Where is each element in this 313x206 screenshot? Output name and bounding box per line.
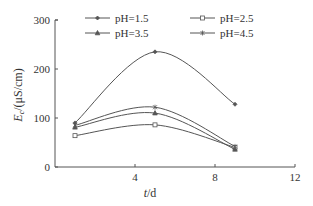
legend-label: pH=4.5 — [220, 27, 254, 39]
legend-label: pH=1.5 — [115, 12, 149, 24]
square-marker-icon — [201, 16, 205, 20]
y-axis-label-unit: /(μS/cm) — [11, 68, 25, 110]
chart: 48120100200300 pH=1.5pH=2.5pH=3.5pH=4.5 … — [0, 0, 313, 206]
y-axis-label: Ec/(μS/cm) — [11, 68, 26, 122]
diamond-marker-icon — [153, 50, 157, 54]
x-axis-label: t/d — [144, 186, 157, 200]
square-marker-icon — [73, 134, 77, 138]
legend-item: pH=3.5 — [85, 27, 149, 39]
legend-label: pH=3.5 — [115, 27, 149, 39]
series-ph-2-5 — [73, 123, 237, 150]
legend-item: pH=2.5 — [190, 12, 254, 24]
y-tick-label: 0 — [45, 161, 51, 173]
axes: 48120100200300 — [34, 14, 301, 183]
legend-item: pH=1.5 — [85, 12, 149, 24]
legend-label: pH=2.5 — [220, 12, 254, 24]
legend: pH=1.5pH=2.5pH=3.5pH=4.5 — [85, 12, 254, 39]
series-lines — [73, 50, 238, 151]
x-tick-label: 8 — [212, 171, 218, 183]
x-axis-label-unit: /d — [147, 186, 156, 200]
diamond-marker-icon — [96, 16, 100, 20]
y-tick-label: 200 — [34, 63, 51, 75]
y-tick-label: 100 — [34, 112, 51, 124]
legend-item: pH=4.5 — [190, 27, 254, 39]
x-tick-label: 4 — [132, 171, 138, 183]
x-tick-label: 12 — [290, 171, 301, 183]
y-tick-label: 300 — [34, 14, 51, 26]
square-marker-icon — [153, 123, 157, 127]
